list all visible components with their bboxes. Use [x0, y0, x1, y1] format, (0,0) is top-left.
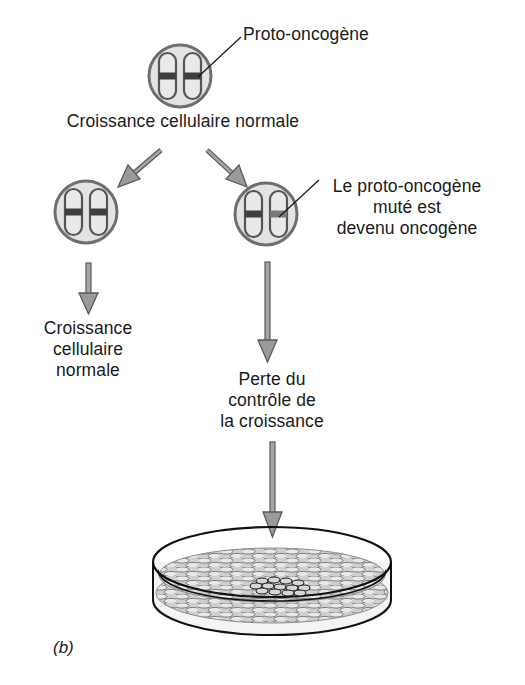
arrow-to-right-cell: [207, 150, 247, 187]
oncogene-callout-line-2: muté est: [322, 197, 492, 218]
arrow-right-down-1: [258, 262, 277, 362]
left-outcome-line-3: normale: [28, 360, 148, 381]
left-outcome-line-1: Croissance: [28, 318, 148, 339]
right-outcome-line-1: Perte du: [212, 369, 332, 390]
right-cell-mutated: [235, 183, 297, 245]
arrow-to-left-cell: [118, 150, 161, 187]
arrow-left-down: [79, 263, 98, 314]
left-outcome-label: Croissance cellulaire normale: [28, 318, 148, 381]
oncogene-callout-line-1: Le proto-oncogène: [322, 176, 492, 197]
oncogene-callout: Le proto-oncogène muté est devenu oncogè…: [322, 176, 492, 239]
proto-oncogene-label: Proto-oncogène: [243, 24, 369, 45]
right-outcome-label: Perte du contrôle de la croissance: [212, 369, 332, 432]
oncogene-callout-line-3: devenu oncogène: [322, 218, 492, 239]
top-cell-caption: Croissance cellulaire normale: [38, 111, 328, 132]
top-cell: [149, 45, 211, 107]
arrow-right-down-2: [263, 442, 282, 537]
left-cell-normal: [55, 181, 117, 243]
panel-label: (b): [53, 638, 74, 658]
left-outcome-line-2: cellulaire: [28, 339, 148, 360]
transformed-cell-focus: [250, 577, 310, 596]
petri-dish: [153, 527, 391, 635]
right-outcome-line-2: contrôle de: [212, 390, 332, 411]
right-outcome-line-3: la croissance: [212, 411, 332, 432]
